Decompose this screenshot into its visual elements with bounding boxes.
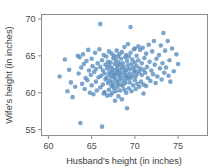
data-point <box>102 90 107 95</box>
data-point <box>98 65 103 70</box>
data-point <box>100 58 105 63</box>
data-point <box>98 22 103 27</box>
data-point <box>86 48 91 53</box>
data-point <box>162 70 167 75</box>
data-point <box>141 91 146 96</box>
data-point <box>152 39 157 44</box>
data-point <box>70 95 75 100</box>
data-point <box>65 89 70 94</box>
data-point <box>170 46 175 51</box>
data-point <box>159 43 164 48</box>
data-point <box>123 81 128 86</box>
data-point <box>118 88 123 93</box>
data-point <box>165 39 170 44</box>
data-point <box>114 89 119 94</box>
data-point <box>94 79 99 84</box>
data-point <box>128 25 133 30</box>
data-point <box>89 83 94 88</box>
data-point <box>84 59 89 64</box>
data-point <box>129 89 134 94</box>
data-point <box>164 65 169 70</box>
data-point <box>113 99 118 104</box>
data-point <box>128 51 133 56</box>
data-point <box>163 48 168 53</box>
data-point <box>120 50 125 55</box>
data-point <box>87 68 92 73</box>
data-point <box>108 60 113 65</box>
data-point <box>159 77 164 82</box>
data-point <box>80 82 85 87</box>
x-axis-title: Husband's height (in inches) <box>66 156 182 166</box>
data-point <box>102 71 107 76</box>
y-tick-label: 70 <box>25 14 35 24</box>
data-point <box>167 58 172 63</box>
data-point <box>145 65 150 70</box>
data-point <box>104 54 109 59</box>
data-point <box>144 84 149 89</box>
data-point <box>67 68 72 73</box>
data-point <box>139 61 144 66</box>
plot-svg: 60657075 55606570 Husband's height (in i… <box>0 0 219 168</box>
data-point <box>146 42 151 47</box>
data-point <box>144 51 149 56</box>
data-point <box>168 79 173 84</box>
x-tick-label: 60 <box>43 141 53 151</box>
data-point <box>151 72 156 77</box>
data-point <box>157 53 162 58</box>
data-point <box>134 54 139 59</box>
data-point <box>100 124 105 129</box>
data-point <box>125 106 130 111</box>
data-point <box>81 52 86 57</box>
data-point <box>124 90 129 95</box>
scatter-plot-figure: 60657075 55606570 Husband's height (in i… <box>0 0 219 168</box>
data-point <box>120 97 125 102</box>
y-tick-label: 60 <box>25 88 35 98</box>
data-point <box>93 51 98 56</box>
data-point <box>125 59 130 64</box>
data-point <box>142 56 147 61</box>
x-tick-label: 65 <box>87 141 97 151</box>
data-point <box>97 47 102 52</box>
y-axis-title: Wife's height (in inches) <box>4 26 14 123</box>
data-point <box>153 81 158 86</box>
data-point <box>143 70 148 75</box>
data-point <box>94 67 99 72</box>
data-point <box>57 74 62 79</box>
data-point <box>101 82 106 87</box>
data-point <box>89 56 94 61</box>
data-point <box>148 79 153 84</box>
data-point <box>174 52 179 57</box>
data-point <box>140 45 145 50</box>
x-axis-ticks: 60657075 <box>43 136 183 151</box>
data-point <box>158 66 163 71</box>
data-point <box>126 42 131 47</box>
data-point <box>78 121 83 126</box>
data-point <box>76 71 81 76</box>
data-point <box>147 59 152 64</box>
data-points-group <box>57 22 180 129</box>
data-point <box>82 87 87 92</box>
data-point <box>119 56 124 61</box>
data-point <box>161 31 166 36</box>
data-point <box>73 85 78 90</box>
data-point <box>160 61 165 66</box>
data-point <box>150 49 155 54</box>
x-tick-label: 75 <box>173 141 183 151</box>
data-point <box>137 85 142 90</box>
y-tick-label: 65 <box>25 51 35 61</box>
data-point <box>176 62 181 67</box>
data-point <box>69 80 74 85</box>
x-tick-label: 70 <box>130 141 140 151</box>
data-point <box>155 74 160 79</box>
y-tick-label: 55 <box>25 125 35 135</box>
data-point <box>166 73 171 78</box>
data-point <box>85 78 90 83</box>
data-point <box>171 69 176 74</box>
data-point <box>91 92 96 97</box>
data-point <box>63 57 68 62</box>
data-point <box>152 62 157 67</box>
y-axis-ticks: 55606570 <box>25 14 41 135</box>
